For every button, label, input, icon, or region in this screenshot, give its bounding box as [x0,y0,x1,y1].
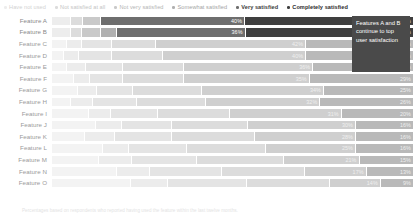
bar-segment-5[interactable]: 16% [356,144,413,153]
bar-segment-5[interactable]: 16% [356,121,413,130]
bar-segment-2[interactable] [93,98,137,107]
bar-segment-3[interactable] [222,167,305,176]
bar-segment-3[interactable] [137,98,206,107]
bar-segment-5[interactable]: 25% [324,86,413,95]
stacked-bar: 30%16% [52,121,413,130]
legend-swatch-icon [4,6,7,9]
bar-segment-4[interactable]: 40% [163,51,306,60]
bar-segment-1[interactable] [71,28,83,37]
bar-segment-3[interactable] [172,121,248,130]
bar-segment-5[interactable]: 15% [360,156,413,165]
bar-segment-4[interactable]: 14% [330,179,381,188]
bar-segment-4[interactable]: 42% [156,40,307,49]
bar-segment-0[interactable] [52,109,89,118]
bar-segment-4[interactable]: 36% [184,63,313,72]
legend-item-1[interactable]: Not satisfied at all [55,4,105,11]
bar-segment-1[interactable] [117,167,150,176]
bar-segment-4[interactable]: 31% [230,109,341,118]
bar-segment-0[interactable] [52,144,103,153]
bar-segment-0[interactable] [52,28,71,37]
segment-value-label: 35% [296,76,309,82]
bar-segment-4[interactable]: 40% [101,17,245,26]
bar-segment-2[interactable] [115,132,173,141]
bar-segment-2[interactable] [79,51,112,60]
bar-segment-1[interactable] [74,74,89,83]
bar-segment-3[interactable] [112,51,163,60]
bar-segment-0[interactable] [52,86,78,95]
bar-segment-5[interactable]: 20% [342,109,413,118]
bar-segment-4[interactable]: 25% [266,144,356,153]
bar-segment-4[interactable]: 30% [248,121,356,130]
bar-segment-2[interactable] [82,28,101,37]
bar-segment-3[interactable] [197,156,283,165]
bar-segment-0[interactable] [52,132,85,141]
chart-row: Feature N17%13% [0,166,415,178]
bar-segment-1[interactable] [64,51,79,60]
bar-segment-1[interactable] [71,17,83,26]
bar-segment-1[interactable] [78,86,97,95]
stacked-bar: 14%9% [52,179,413,188]
legend-swatch-icon [114,6,117,9]
bar-segment-5[interactable]: 16% [356,132,413,141]
bar-segment-4[interactable]: 34% [202,86,324,95]
bar-segment-1[interactable] [131,179,168,188]
legend-item-4[interactable]: Very satisfied [236,4,278,11]
bar-segment-1[interactable] [85,132,114,141]
bar-segment-1[interactable] [89,109,111,118]
bar-segment-1[interactable] [67,63,86,72]
bar-segment-2[interactable] [129,144,187,153]
bar-segment-5[interactable]: 29% [310,74,413,83]
bar-segment-2[interactable] [132,156,197,165]
bar-segment-2[interactable] [82,40,111,49]
bar-segment-0[interactable] [52,51,64,60]
bar-segment-3[interactable] [158,109,230,118]
bar-segment-0[interactable] [52,121,96,130]
legend-swatch-icon [236,6,239,9]
bar-segment-1[interactable] [67,40,82,49]
bar-segment-3[interactable] [187,144,266,153]
bar-segment-3[interactable] [247,179,330,188]
bar-segment-3[interactable] [112,40,156,49]
bar-segment-0[interactable] [52,40,67,49]
bar-segment-2[interactable] [97,86,134,95]
row-label: Feature E [0,63,52,71]
bar-segment-1[interactable] [99,156,132,165]
legend-item-5[interactable]: Completely satisfied [287,4,348,11]
legend-item-3[interactable]: Somewhat satisfied [172,4,227,11]
bar-segment-3[interactable] [123,63,185,72]
bar-segment-4[interactable]: 35% [184,74,310,83]
bar-segment-2[interactable] [83,17,102,26]
bar-segment-4[interactable]: 32% [206,98,321,107]
bar-segment-4[interactable]: 36% [117,28,246,37]
bar-segment-5[interactable]: 9% [381,179,413,188]
row-label: Feature I [0,110,52,118]
bar-segment-5[interactable]: 26% [320,98,413,107]
bar-segment-0[interactable] [52,17,71,26]
legend-item-0[interactable]: Have not used [4,4,46,11]
bar-segment-3[interactable] [123,74,185,83]
bar-segment-0[interactable] [52,179,131,188]
legend-item-label: Not very satisfied [120,4,164,11]
bar-segment-0[interactable] [52,98,71,107]
bar-segment-0[interactable] [52,167,117,176]
bar-segment-1[interactable] [71,98,93,107]
bar-segment-2[interactable] [122,121,173,130]
bar-segment-1[interactable] [96,121,122,130]
bar-segment-0[interactable] [52,156,99,165]
bar-segment-2[interactable] [111,109,158,118]
bar-segment-2[interactable] [90,74,123,83]
bar-segment-0[interactable] [52,63,67,72]
bar-segment-2[interactable] [150,167,222,176]
bar-segment-0[interactable] [52,74,74,83]
bar-segment-2[interactable] [86,63,123,72]
legend-item-2[interactable]: Not very satisfied [114,4,163,11]
bar-segment-1[interactable] [103,144,129,153]
bar-segment-3[interactable] [101,28,116,37]
bar-segment-4[interactable]: 17% [305,167,367,176]
bar-segment-5[interactable]: 13% [367,167,413,176]
bar-segment-3[interactable] [133,86,202,95]
bar-segment-2[interactable] [168,179,247,188]
bar-segment-3[interactable] [172,132,255,141]
bar-segment-4[interactable]: 21% [284,156,360,165]
bar-segment-4[interactable]: 28% [255,132,356,141]
